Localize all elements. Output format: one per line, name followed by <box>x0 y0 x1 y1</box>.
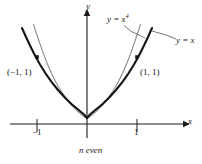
curve-label-quartic: y = x4 <box>107 15 129 24</box>
leader-line-quartic <box>124 26 145 39</box>
leader-line-square <box>152 31 176 39</box>
x-tick-label-negative-one: −1 <box>32 128 42 137</box>
y-axis-label: y <box>86 2 90 11</box>
x-axis-label: x <box>188 117 192 126</box>
point-label-one-one: (1, 1) <box>140 68 160 77</box>
math-figure-even-power-functions: y x −1 1 (−1, 1) (1, 1) y = x4 y = x n e… <box>0 0 202 164</box>
curve-label-square: y = x <box>176 36 195 45</box>
curve-label-quartic-text: y = x <box>107 14 126 24</box>
x-tick-label-positive-one: 1 <box>134 128 139 137</box>
graph-canvas <box>0 0 202 164</box>
point-marker-right <box>135 55 139 59</box>
point-label-minus-one-one: (−1, 1) <box>7 68 32 77</box>
point-marker-left <box>35 55 39 59</box>
curve-label-quartic-exponent: 4 <box>126 12 129 19</box>
figure-caption: n even <box>79 146 102 155</box>
